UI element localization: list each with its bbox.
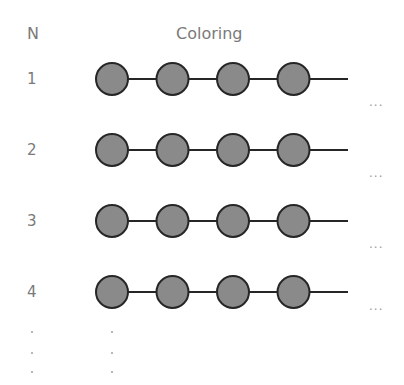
vertex-node [217,205,249,237]
vertex-node [157,276,189,308]
row-4-ellipsis: ... [369,301,383,311]
row-3-ellipsis: ... [369,239,383,249]
vertex-node [96,205,128,237]
coloring-continuation-dot [111,371,113,373]
vertex-node [278,134,310,166]
n-continuation-dot [31,371,33,373]
n-continuation-dot [31,331,33,333]
vertex-node [157,205,189,237]
vertex-node [217,134,249,166]
coloring-continuation-dot [111,352,113,354]
vertex-node [217,63,249,95]
vertex-node [157,63,189,95]
coloring-continuation-dot [111,331,113,333]
vertex-node [96,63,128,95]
vertex-node [96,276,128,308]
row-1-ellipsis: ... [369,97,383,107]
vertex-node [96,134,128,166]
vertex-node [278,205,310,237]
vertex-node [157,134,189,166]
row-2-ellipsis: ... [369,168,383,178]
vertex-node [278,276,310,308]
path-graph-colorings [0,0,404,385]
vertex-node [278,63,310,95]
vertex-node [217,276,249,308]
n-continuation-dot [31,352,33,354]
